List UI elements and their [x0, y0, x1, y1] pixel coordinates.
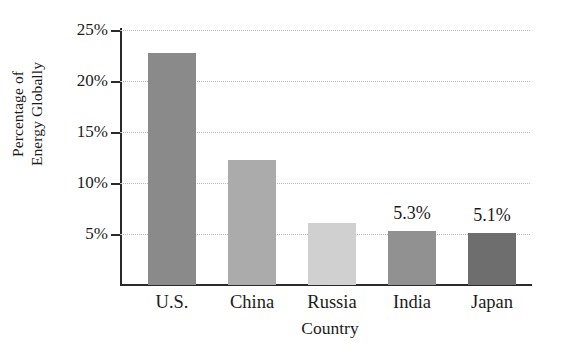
x-axis-title: Country [0, 318, 564, 339]
y-tick-label-15pct: 15% [77, 122, 108, 142]
y-axis-title-line-1: Percentage of [8, 14, 27, 214]
y-tick-label-10pct: 10% [77, 173, 108, 193]
y-tick-mark-10pct [111, 183, 120, 185]
bar-china[interactable] [228, 160, 276, 285]
x-category-label-india: India [393, 292, 431, 313]
y-tick-mark-5pct [111, 234, 120, 236]
y-tick-label-20pct: 20% [77, 71, 108, 91]
bar-japan[interactable] [468, 233, 516, 285]
x-category-label-china: China [230, 292, 274, 313]
y-tick-mark-20pct [111, 81, 120, 83]
gridline-25pct [120, 30, 530, 31]
y-tick-label-25pct: 25% [77, 20, 108, 40]
y-tick-mark-15pct [111, 132, 120, 134]
bar-chart: Percentage of Energy Globally 5%10%15%20… [0, 0, 564, 355]
bar-u-s[interactable] [148, 53, 196, 285]
bar-india[interactable] [388, 231, 436, 285]
x-category-label-u-s: U.S. [156, 292, 189, 313]
x-category-label-japan: Japan [471, 292, 513, 313]
bar-russia[interactable] [308, 223, 356, 285]
y-axis-title: Percentage of Energy Globally [8, 14, 52, 214]
y-tick-label-5pct: 5% [85, 224, 108, 244]
plot-area: 5%10%15%20%25% 5.3%5.1% [120, 30, 530, 285]
y-axis-title-line-2: Energy Globally [27, 14, 46, 214]
y-tick-mark-25pct [111, 30, 120, 32]
bar-value-label-japan: 5.1% [473, 205, 511, 226]
bar-value-label-india: 5.3% [393, 203, 431, 224]
x-axis-title-text: Country [301, 318, 358, 338]
x-category-label-russia: Russia [307, 292, 356, 313]
